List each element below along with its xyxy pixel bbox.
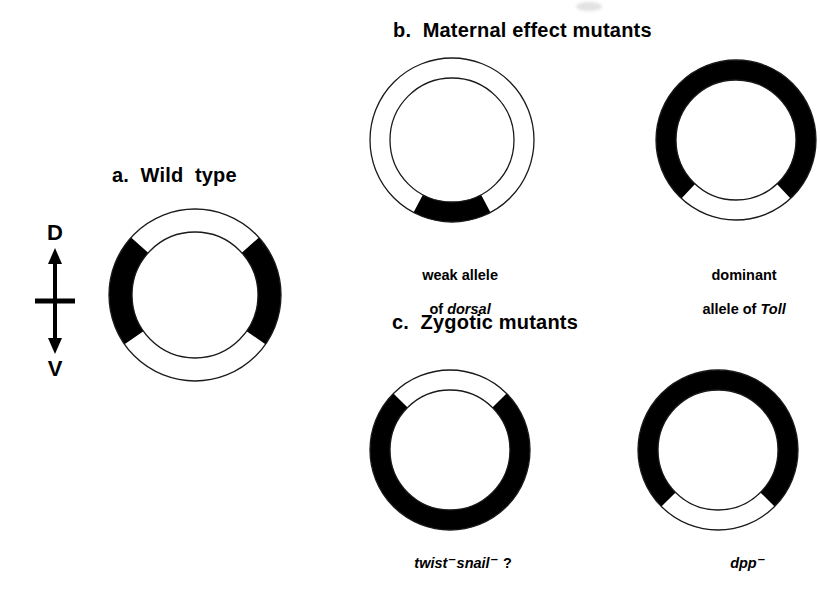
- ring-inner-outline: [658, 390, 778, 510]
- axis-label-dorsal: D: [24, 222, 86, 244]
- minus-superscript-twist: –: [447, 551, 456, 566]
- caption-line-1: dominant: [711, 267, 776, 283]
- ring-arc-lateral-right: [242, 237, 281, 344]
- ring-base-annulus: [370, 58, 534, 222]
- ring-base-annulus: [109, 209, 281, 381]
- panel-heading-wild-type: a. Wild type: [112, 164, 237, 187]
- ring-arc-lateral-left: [109, 237, 148, 344]
- ring-dominant-allele-of-toll: [652, 56, 820, 224]
- ring-inner-outline: [390, 78, 514, 202]
- ring-wild-type: [105, 205, 285, 385]
- scan-artifact-smudge: [576, 2, 602, 11]
- ring-arc-ventral: [681, 184, 790, 220]
- ring-inner-outline: [132, 232, 258, 358]
- figure-canvas: a. Wild type b. Maternal effect mutants …: [0, 0, 820, 596]
- minus-superscript-dpp: –: [757, 551, 766, 566]
- question-mark: ?: [499, 555, 512, 571]
- gene-name-snail: snail: [457, 555, 490, 571]
- gene-name-twist: twist: [414, 555, 447, 571]
- gene-name-dorsal: dorsal: [447, 301, 491, 317]
- dorsoventral-axis-indicator: D V: [24, 222, 86, 380]
- ring-inner-outline: [390, 390, 510, 510]
- ring-caption-dpp: dpp–: [640, 533, 820, 589]
- ring-inner-outline: [676, 80, 796, 200]
- gene-name-toll: Toll: [760, 301, 785, 317]
- ring-caption-weak-allele-of-dorsal: weak allele of dorsal: [352, 250, 552, 335]
- gene-name-dpp: dpp: [730, 555, 757, 571]
- minus-superscript-snail: –: [490, 551, 499, 566]
- caption-line-2-prefix: allele of: [702, 301, 760, 317]
- caption-line-2-prefix: of: [429, 301, 447, 317]
- ring-twist-snail-double-mutant: [366, 366, 534, 534]
- double-arrow-icon: [24, 248, 86, 354]
- axis-label-ventral: V: [24, 358, 86, 380]
- panel-heading-maternal-effect-mutants: b. Maternal effect mutants: [393, 19, 652, 42]
- ring-caption-twist-snail: twist–snail– ?: [340, 533, 570, 589]
- caption-line-1: weak allele: [422, 267, 498, 283]
- ring-weak-allele-of-dorsal: [366, 54, 538, 226]
- ring-arc-dorsal: [393, 370, 506, 408]
- ring-caption-dominant-allele-of-toll: dominant allele of Toll: [636, 250, 820, 335]
- ring-arc-ventral: [661, 492, 774, 530]
- ring-dpp-mutant: [634, 366, 802, 534]
- ring-base-annulus: [656, 60, 816, 220]
